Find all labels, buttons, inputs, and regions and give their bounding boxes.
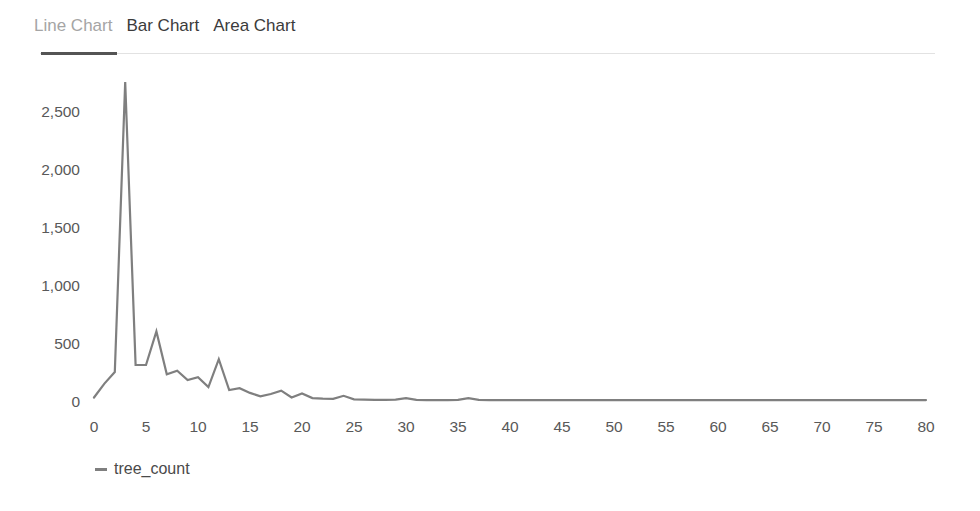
x-axis-tick-label: 15: [241, 418, 258, 435]
x-axis-tick-label: 60: [709, 418, 727, 435]
x-axis-tick-label: 75: [865, 418, 882, 435]
x-axis-tick-label: 0: [90, 418, 99, 435]
x-axis-tick-label: 10: [189, 418, 207, 435]
y-axis-tick-label: 2,500: [41, 103, 80, 120]
y-axis-tick-label: 0: [71, 393, 80, 410]
x-axis-tick-label: 65: [761, 418, 778, 435]
x-axis-tick-label: 25: [345, 418, 362, 435]
x-axis-tick-label: 45: [553, 418, 570, 435]
x-axis-tick-label: 80: [917, 418, 935, 435]
x-axis-tick-label: 70: [813, 418, 831, 435]
x-axis-tick-label: 30: [397, 418, 415, 435]
legend-series-label: tree_count: [114, 460, 190, 478]
x-axis-tick-label: 35: [449, 418, 466, 435]
y-axis-tick-label: 1,000: [41, 277, 80, 294]
x-axis-tick-label: 55: [657, 418, 674, 435]
y-axis-tick-label: 1,500: [41, 219, 80, 236]
line-chart-plot: 05001,0001,5002,0002,5000510152025303540…: [0, 0, 980, 511]
y-axis-tick-label: 2,000: [41, 161, 80, 178]
x-axis-tick-label: 50: [605, 418, 623, 435]
chart-widget: Line Chart Bar Chart Area Chart 05001,00…: [0, 0, 980, 511]
chart-legend: tree_count: [95, 460, 190, 478]
x-axis-tick-label: 20: [293, 418, 311, 435]
x-axis-tick-label: 40: [501, 418, 519, 435]
legend-line-marker: [95, 468, 107, 471]
x-axis-tick-label: 5: [142, 418, 151, 435]
series-line-tree-count: [94, 82, 926, 400]
y-axis-tick-label: 500: [54, 335, 80, 352]
